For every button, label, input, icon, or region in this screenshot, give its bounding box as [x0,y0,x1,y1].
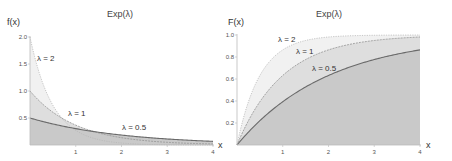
curve-label-lambda-0-5: λ = 0.5 [312,64,337,73]
curve-label-lambda-1: λ = 1 [296,47,314,56]
pdf-y-axis-label: f(x) [7,17,20,27]
y-tick-label: 0.5 [19,115,28,121]
curve-label-lambda-2: λ = 2 [37,54,55,63]
x-tick-label: 4 [211,149,215,155]
cdf-y-axis-label: F(x) [228,17,244,27]
y-tick-label: 2.0 [19,34,28,40]
cdf-shaded-areas [237,35,420,145]
x-tick-label: 3 [373,149,377,155]
x-tick-label: 1 [281,149,285,155]
y-tick-label: 0.6 [226,76,235,82]
y-tick-label: 1.0 [19,88,28,94]
pdf-chart-title: Exp(λ) [107,9,133,19]
y-tick-label: 1.0 [226,32,235,38]
pdf-x-axis-label: x [218,140,223,150]
cdf-x-ticks: 1234 [281,145,422,155]
cdf-chart: Exp(λ) F(x) 1234 0.20.40.60.81.0 x λ = 2… [226,9,431,155]
x-tick-label: 2 [120,149,124,155]
cdf-x-axis-label: x [426,140,431,150]
y-tick-label: 0.2 [226,120,235,126]
y-tick-label: 1.5 [19,61,28,67]
x-tick-label: 1 [74,149,78,155]
curve-label-lambda-2: λ = 2 [278,35,296,44]
x-tick-label: 3 [166,149,170,155]
curve-label-lambda-1: λ = 1 [68,109,86,118]
pdf-y-ticks: 0.51.01.52.0 [19,34,30,121]
cdf-y-ticks: 0.20.40.60.81.0 [226,32,237,126]
curve-label-lambda-0-5: λ = 0.5 [122,123,147,132]
y-tick-label: 0.4 [226,98,235,104]
pdf-chart: Exp(λ) f(x) 1234 0.51.01.52.0 x λ = 2λ =… [7,9,223,155]
exp-distribution-figure: Exp(λ) f(x) 1234 0.51.01.52.0 x λ = 2λ =… [0,0,452,161]
pdf-x-ticks: 1234 [74,145,215,155]
cdf-chart-title: Exp(λ) [316,9,342,19]
y-tick-label: 0.8 [226,54,235,60]
x-tick-label: 2 [327,149,331,155]
x-tick-label: 4 [418,149,422,155]
